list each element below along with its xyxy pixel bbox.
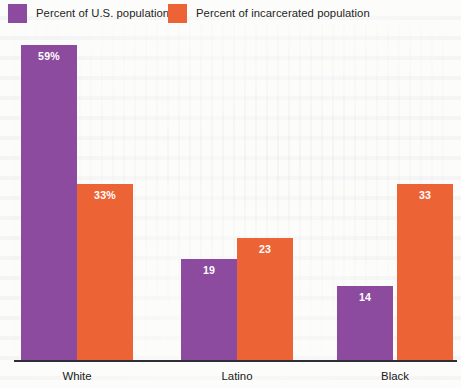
x-axis-label-latino: Latino bbox=[181, 370, 293, 382]
bar-latino-incarcerated: 23 bbox=[237, 238, 293, 361]
legend-item-us-population: Percent of U.S. population bbox=[8, 3, 169, 23]
bar-value-label: 19 bbox=[181, 264, 237, 276]
legend-swatch-orange-icon bbox=[168, 4, 187, 23]
bar-black-incarcerated: 33 bbox=[397, 184, 453, 361]
legend-label-incarcerated-population: Percent of incarcerated population bbox=[196, 7, 370, 19]
bar-white-incarcerated: 33% bbox=[77, 184, 133, 361]
bar-latino-population: 19 bbox=[181, 259, 237, 361]
bar-value-label: 33% bbox=[77, 189, 133, 201]
bar-chart: Percent of U.S. population Percent of in… bbox=[0, 0, 461, 388]
legend-item-incarcerated-population: Percent of incarcerated population bbox=[168, 3, 370, 23]
x-axis-line bbox=[14, 360, 457, 362]
bar-value-label: 33 bbox=[397, 189, 453, 201]
plot-area: 59%33%19231433 bbox=[0, 28, 461, 361]
bar-value-label: 23 bbox=[237, 243, 293, 255]
chart-legend: Percent of U.S. population Percent of in… bbox=[0, 0, 461, 28]
bar-value-label: 59% bbox=[21, 50, 77, 62]
bar-black-population: 14 bbox=[337, 286, 393, 361]
x-axis-category-labels: WhiteLatinoBlack bbox=[0, 366, 461, 388]
bar-value-label: 14 bbox=[337, 291, 393, 303]
x-axis-label-white: White bbox=[21, 370, 133, 382]
x-axis-label-black: Black bbox=[337, 370, 453, 382]
legend-label-us-population: Percent of U.S. population bbox=[36, 7, 169, 19]
legend-swatch-purple-icon bbox=[8, 4, 27, 23]
bar-white-population: 59% bbox=[21, 45, 77, 361]
